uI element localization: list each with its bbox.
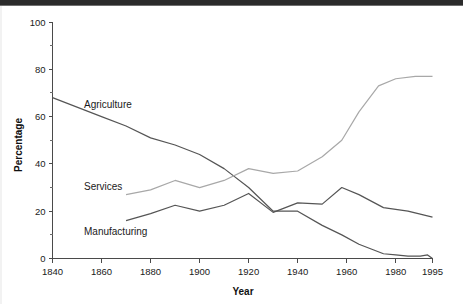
y-axis-tick-labels: 020406080100: [30, 17, 46, 265]
y-tick-label: 80: [35, 64, 46, 75]
x-tick-label: 1940: [287, 266, 308, 277]
y-tick-label: 0: [40, 253, 45, 264]
y-tick-label: 100: [30, 17, 46, 28]
series-line-services: [126, 76, 432, 194]
x-axis-title: Year: [232, 286, 253, 297]
series-label-services: Services: [84, 181, 122, 192]
y-tick-label: 60: [35, 111, 46, 122]
series-line-manufacturing: [126, 188, 432, 221]
chart-axes: [53, 22, 433, 259]
x-tick-label: 1995: [422, 266, 443, 277]
x-tick-label: 1860: [91, 266, 112, 277]
x-tick-label: 1980: [385, 266, 406, 277]
x-axis-ticks: [53, 259, 433, 263]
x-tick-label: 1840: [42, 266, 63, 277]
x-tick-label: 1920: [238, 266, 259, 277]
y-tick-label: 20: [35, 206, 46, 217]
x-tick-label: 1880: [140, 266, 161, 277]
x-tick-label: 1960: [336, 266, 357, 277]
y-tick-label: 40: [35, 158, 46, 169]
y-axis-title: Percentage: [13, 118, 24, 172]
line-chart-plot: 020406080100 184018601880190019201940196…: [0, 0, 463, 304]
x-axis-tick-labels: 184018601880190019201940196019801995: [42, 266, 443, 277]
x-tick-label: 1900: [189, 266, 210, 277]
series-label-agriculture: Agriculture: [84, 99, 132, 110]
chart-figure: 020406080100 184018601880190019201940196…: [0, 0, 463, 304]
series-label-manufacturing: Manufacturing: [84, 226, 147, 237]
